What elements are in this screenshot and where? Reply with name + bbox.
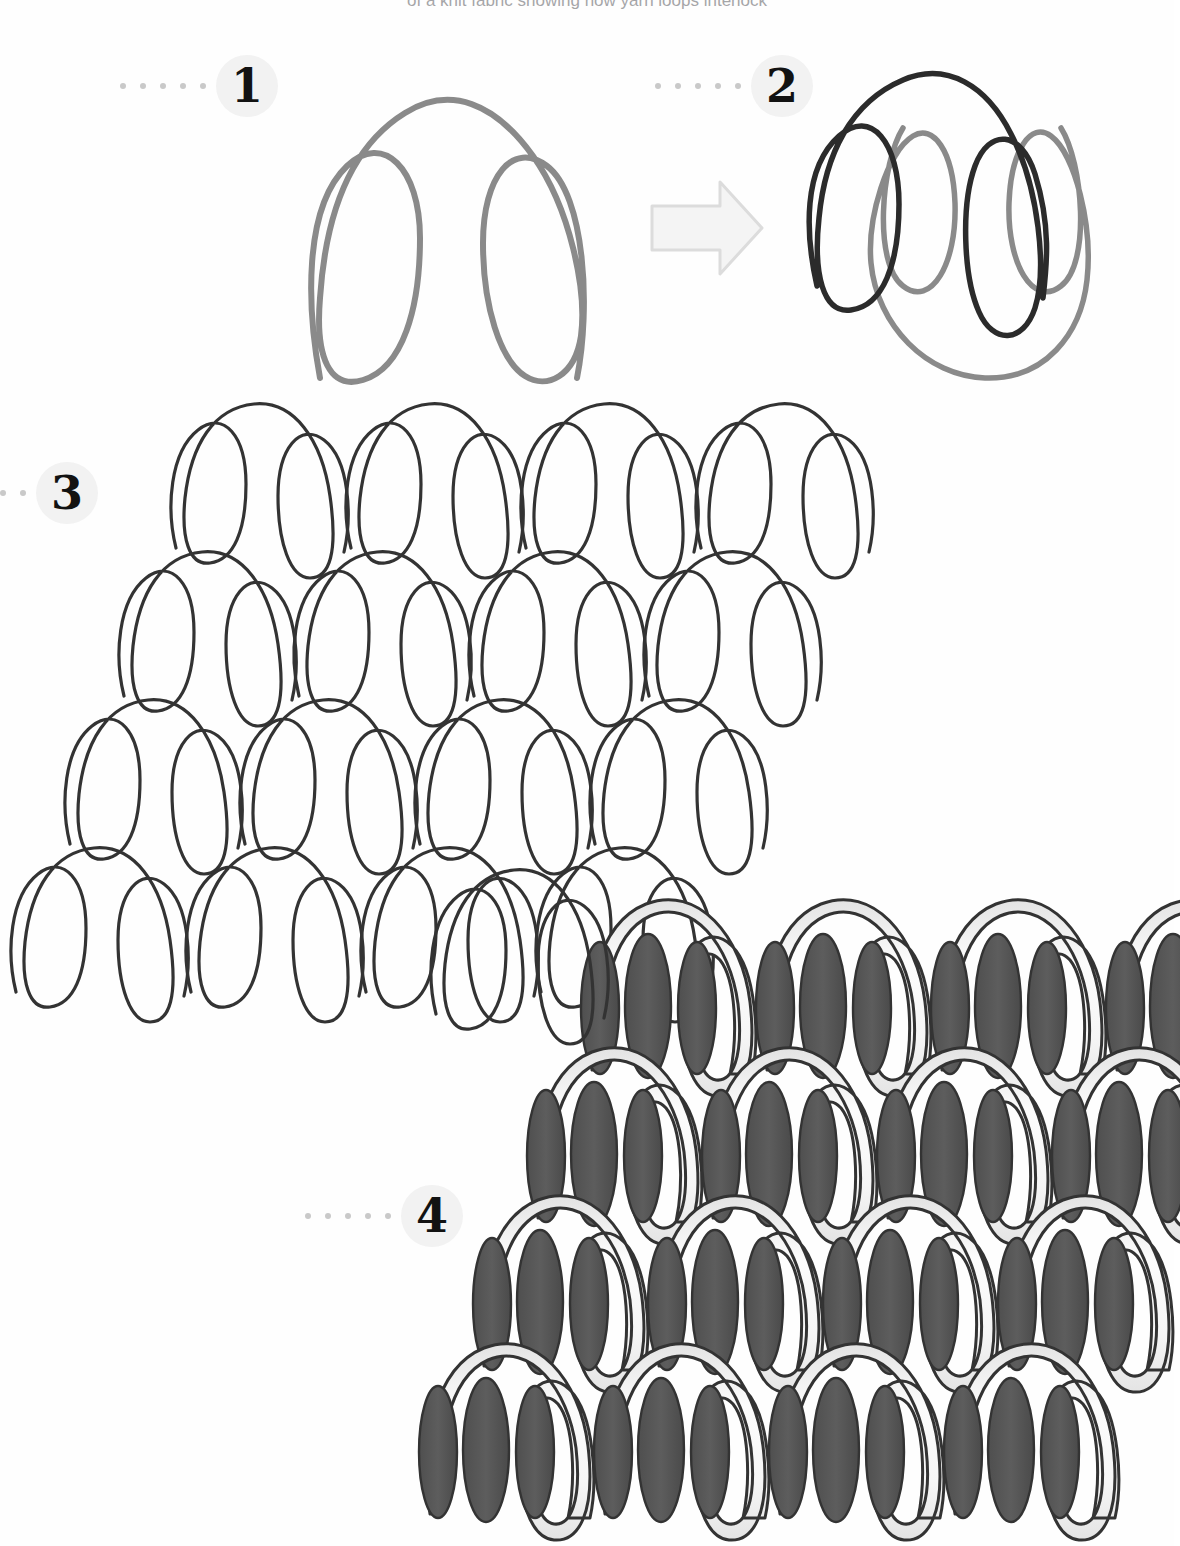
right-arrow-icon <box>648 178 766 278</box>
leader-dots-4 <box>305 1213 391 1219</box>
step-number-2: 2 <box>766 63 798 109</box>
stitch-row-filled <box>581 900 1180 1096</box>
figure-step-1 <box>285 58 615 398</box>
stitch-row <box>119 552 821 726</box>
stitch-row <box>65 700 767 874</box>
step-badge-2: 2 <box>655 55 813 117</box>
stitch-row <box>171 404 873 578</box>
leader-dots-1 <box>120 83 206 89</box>
figure-step3-overlap-stitch <box>430 866 620 1056</box>
step-badge-1: 1 <box>120 55 278 117</box>
top-caption: of a knit fabric showing how yarn loops … <box>0 0 1174 11</box>
step-number-1: 1 <box>231 63 263 109</box>
badge-circle-1: 1 <box>216 55 278 117</box>
leader-dots-2 <box>655 83 741 89</box>
figure-step-2 <box>795 58 1125 398</box>
